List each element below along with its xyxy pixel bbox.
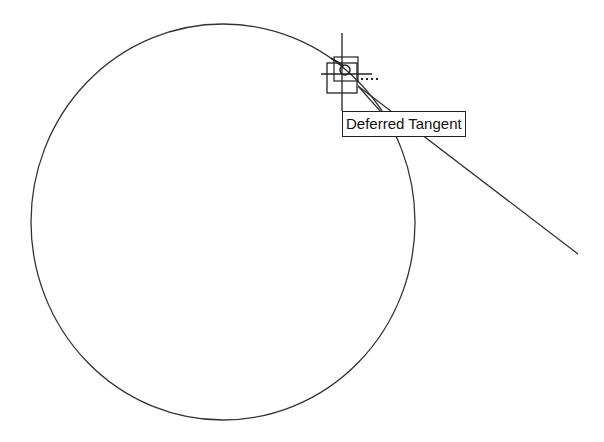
tracking-dots-icon — [361, 78, 378, 80]
crosshair-cursor-icon — [321, 33, 372, 111]
rubber-band-line-secondary — [358, 86, 381, 112]
drawing-canvas[interactable]: Deferred Tangent — [0, 0, 604, 442]
osnap-tooltip: Deferred Tangent — [342, 111, 466, 137]
drawing-layer — [0, 0, 604, 442]
